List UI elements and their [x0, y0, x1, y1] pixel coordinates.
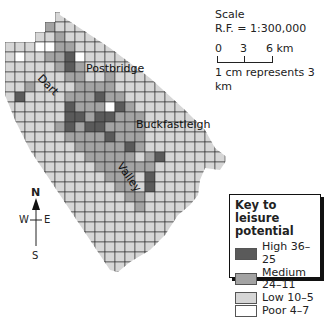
grid-cell — [75, 72, 85, 82]
grid-cell — [75, 182, 85, 192]
grid-cell — [125, 262, 135, 272]
grid-cell — [105, 212, 115, 222]
legend-swatch — [235, 248, 257, 260]
grid-cell — [35, 102, 45, 112]
grid-cell — [25, 12, 35, 22]
grid-cell — [85, 42, 95, 52]
grid-cell — [55, 212, 65, 222]
grid-cell — [85, 22, 95, 32]
grid-cell — [75, 22, 85, 32]
grid-cell — [55, 262, 65, 272]
grid-cell — [45, 142, 55, 152]
grid-cell — [155, 172, 165, 182]
grid-cell — [155, 32, 165, 42]
grid-cell — [95, 202, 105, 212]
grid-cell — [125, 222, 135, 232]
grid-cell — [95, 192, 105, 202]
grid-cell — [95, 162, 105, 172]
grid-cell — [55, 232, 65, 242]
grid-cell — [5, 142, 15, 152]
grid-cell — [75, 262, 85, 272]
grid-cell — [125, 12, 135, 22]
grid-cell — [85, 192, 95, 202]
grid-cell — [145, 22, 155, 32]
grid-cell — [95, 152, 105, 162]
grid-cell — [45, 102, 55, 112]
grid-cell — [135, 262, 145, 272]
grid-cell — [165, 32, 175, 42]
grid-cell — [205, 212, 215, 222]
grid-cell — [155, 252, 165, 262]
scale-tick-3: 3 — [240, 42, 247, 56]
grid-cell — [185, 32, 195, 42]
grid-cell — [165, 52, 175, 62]
grid-cell — [175, 132, 185, 142]
grid-cell — [65, 102, 75, 112]
grid-cell — [125, 142, 135, 152]
grid-cell — [105, 42, 115, 52]
grid-cell — [125, 202, 135, 212]
grid-cell — [95, 142, 105, 152]
grid-cell — [215, 142, 225, 152]
legend-item: Medium 24–11 — [235, 267, 315, 292]
grid-cell — [185, 252, 195, 262]
grid-cell — [185, 42, 195, 52]
grid-cell — [55, 182, 65, 192]
grid-cell — [185, 62, 195, 72]
grid-cell — [205, 12, 215, 22]
grid-cell — [65, 42, 75, 52]
grid-cell — [135, 92, 145, 102]
grid-cell — [75, 42, 85, 52]
grid-cell — [25, 72, 35, 82]
grid-cell — [35, 62, 45, 72]
grid-cell — [155, 12, 165, 22]
scale-ticks: 0 3 6 km — [215, 42, 325, 56]
grid-cell — [215, 222, 225, 232]
grid-cell — [145, 82, 155, 92]
grid-cell — [155, 232, 165, 242]
grid-cell — [95, 112, 105, 122]
grid-cell — [5, 32, 15, 42]
grid-cell — [215, 242, 225, 252]
grid-cell — [55, 202, 65, 212]
grid-cell — [165, 262, 175, 272]
grid-cell — [65, 142, 75, 152]
grid-cell — [135, 142, 145, 152]
grid-cell — [165, 212, 175, 222]
grid-cell — [155, 202, 165, 212]
grid-cell — [115, 142, 125, 152]
legend-item: Low 10–5 — [235, 292, 315, 305]
grid-cell — [215, 122, 225, 132]
grid-cell — [205, 92, 215, 102]
grid-cell — [125, 42, 135, 52]
grid-cell — [85, 242, 95, 252]
grid-cell — [15, 162, 25, 172]
grid-cell — [125, 22, 135, 32]
grid-cell — [55, 172, 65, 182]
place-label: Postbridge — [86, 62, 144, 75]
grid-cell — [165, 132, 175, 142]
scale-title: Scale — [215, 8, 329, 22]
grid-cell — [105, 172, 115, 182]
grid-cell — [205, 202, 215, 212]
grid-cell — [145, 62, 155, 72]
grid-cell — [205, 82, 215, 92]
grid-cell — [85, 162, 95, 172]
grid-cell — [145, 252, 155, 262]
grid-cell — [165, 202, 175, 212]
grid-cell — [115, 112, 125, 122]
grid-cell — [195, 152, 205, 162]
grid-cell — [45, 122, 55, 132]
grid-cell — [95, 212, 105, 222]
grid-cell — [95, 252, 105, 262]
grid-cell — [95, 22, 105, 32]
grid-cell — [25, 82, 35, 92]
grid-cell — [65, 202, 75, 212]
grid-cell — [185, 172, 195, 182]
grid-cell — [95, 262, 105, 272]
grid-cell — [205, 62, 215, 72]
grid-cell — [85, 32, 95, 42]
grid-cell — [125, 212, 135, 222]
grid-cell — [205, 22, 215, 32]
grid-cell — [115, 192, 125, 202]
